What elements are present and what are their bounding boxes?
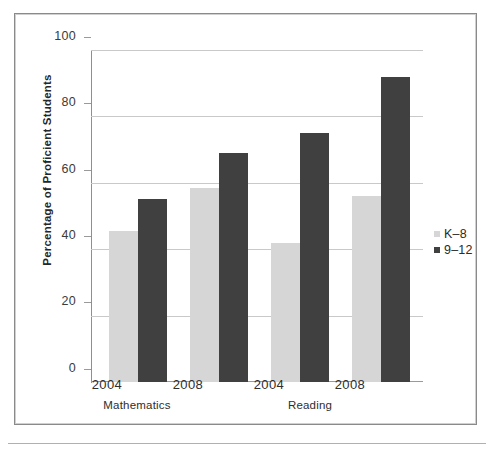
y-axis-tick-label-0: 0 — [30, 361, 76, 375]
legend-label-k8: K–8 — [444, 227, 467, 241]
y-axis-tick-0 — [84, 369, 91, 370]
bar-reading-2008-9-12 — [381, 77, 410, 382]
legend-item-k8: K–8 — [434, 227, 473, 241]
y-axis-tick-label-80: 80 — [30, 95, 76, 109]
legend-swatch-9-12-icon — [434, 247, 440, 253]
x-axis-group-label-mathematics: Mathematics — [87, 399, 187, 411]
bar-mathematics-2008-9-12 — [219, 153, 248, 382]
x-axis-label-year-3: 2004 — [239, 377, 299, 392]
y-axis-title: Percentage of Proficient Students — [41, 60, 53, 280]
y-axis-tick-20 — [84, 302, 91, 303]
bar-reading-2004-9-12 — [300, 133, 329, 382]
legend-label-9-12: 9–12 — [444, 243, 473, 257]
x-axis-label-year-4: 2008 — [320, 377, 380, 392]
bar-reading-2008-k8 — [352, 196, 381, 382]
plot-area — [91, 50, 423, 382]
y-axis-tick-100 — [84, 37, 91, 38]
legend-item-9-12: 9–12 — [434, 243, 473, 257]
y-axis-tick-label-40: 40 — [30, 228, 76, 242]
gridline-60 — [91, 183, 423, 184]
x-axis-group-label-reading: Reading — [260, 399, 360, 411]
figure-frame: 100 80 60 40 20 0 Percentage of Proficie… — [14, 13, 477, 425]
x-axis-label-year-1: 2004 — [77, 377, 137, 392]
chart-legend: K–8 9–12 — [434, 227, 473, 259]
x-axis-label-year-2: 2008 — [158, 377, 218, 392]
bar-mathematics-2004-9-12 — [138, 199, 167, 382]
y-axis-tick-40 — [84, 236, 91, 237]
page-divider-rule — [8, 443, 486, 444]
gridline-100 — [91, 50, 423, 51]
bar-reading-2004-k8 — [271, 243, 300, 382]
y-axis-tick-60 — [84, 170, 91, 171]
y-axis-tick-label-60: 60 — [30, 162, 76, 176]
gridline-80 — [91, 116, 423, 117]
y-axis-tick-label-20: 20 — [30, 294, 76, 308]
bar-mathematics-2004-k8 — [109, 231, 138, 382]
y-axis-tick-label-100: 100 — [30, 29, 76, 43]
y-axis-tick-80 — [84, 103, 91, 104]
legend-swatch-k8-icon — [434, 231, 440, 237]
bar-mathematics-2008-k8 — [190, 188, 219, 382]
